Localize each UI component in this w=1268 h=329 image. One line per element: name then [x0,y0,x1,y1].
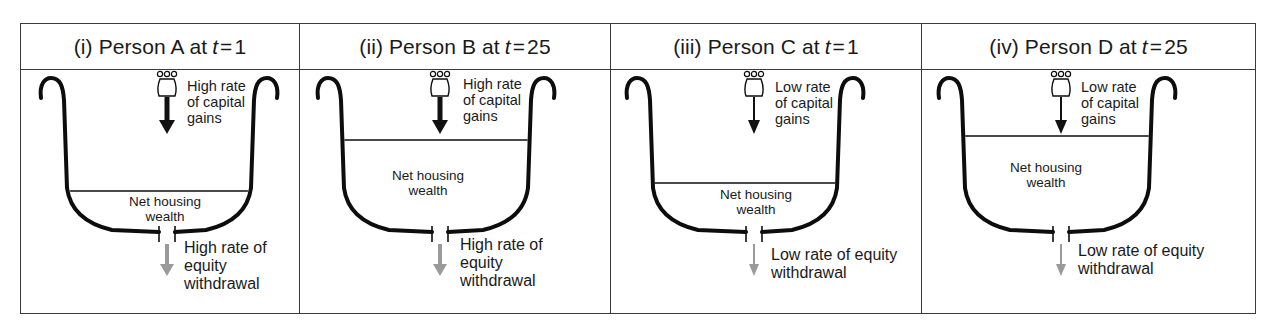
net-housing-wealth-label: Net housing wealth [1010,160,1082,190]
tap-handle-knob [157,71,162,76]
tap-body [745,79,763,96]
panel-title: (iii) Person C att=1 [611,24,921,70]
label-line: Low rate [1081,79,1139,95]
label-line: withdrawal [771,264,897,282]
label-line: Low rate of equity [1078,242,1204,260]
label-line: of capital [463,92,522,108]
panel-body: High rate of capital gains Net housing w… [300,70,610,313]
net-housing-wealth-label: Net housing wealth [720,187,792,217]
label-line: Net housing [720,187,792,202]
equity-withdrawal-arrow-head [1056,264,1066,276]
tap-handle-knob [444,71,449,76]
time-variable: t [505,35,511,59]
capital-gains-arrow-head [748,120,760,134]
label-line: wealth [720,202,792,217]
figure-frame: (i) Person A att=1 High rate of capital … [20,23,1256,314]
tap-handle-knob [758,71,763,76]
label-line: Net housing [392,168,464,183]
panel-body: Low rate of capital gains Net housing we… [611,70,921,313]
equity-withdrawal-label: Low rate of equity withdrawal [1078,242,1204,278]
net-housing-wealth-label: Net housing wealth [129,194,201,224]
equity-withdrawal-label: High rate of equity withdrawal [460,236,543,290]
time-value: 25 [1164,35,1188,59]
tap-body [1052,79,1070,96]
label-line: High rate [463,76,522,92]
label-line: High rate of [184,239,267,257]
tap-handle-knob [164,71,169,76]
panel-title: (i) Person A att=1 [21,24,299,70]
tap-icon [1051,71,1070,96]
equity-withdrawal-label: Low rate of equity withdrawal [771,246,897,282]
equity-withdrawal-label: High rate of equity withdrawal [184,239,267,293]
capital-gains-label: High rate of capital gains [187,78,246,127]
capital-gains-label: Low rate of capital gains [775,79,833,128]
panel-body: Low rate of capital gains Net housing we… [922,70,1255,313]
tap-handle-knob [430,71,435,76]
equity-withdrawal-arrow-head [433,264,447,276]
equity-withdrawal-arrow-head [749,264,759,276]
bucket-left-wall [939,78,1053,232]
time-variable: t [212,35,218,59]
label-line: of capital [187,94,246,110]
equals-sign: = [1150,35,1162,59]
bucket-left-wall [318,78,432,232]
label-line: gains [1081,111,1139,127]
label-line: equity [184,257,267,275]
capital-gains-arrow-head [1055,120,1067,134]
label-line: equity [460,254,543,272]
panel-person-b: (ii) Person B att=25 High rate of capita… [299,24,610,313]
panel-person: Person B at [389,35,500,59]
label-line: of capital [1081,95,1139,111]
panel-person: Person A at [99,35,208,59]
capital-gains-label: High rate of capital gains [463,76,522,125]
tap-icon [744,71,763,96]
equals-sign: = [833,35,845,59]
panel-numeral: (iv) [989,35,1019,59]
tap-icon [430,71,449,96]
label-line: wealth [392,183,464,198]
tap-handle-knob [1058,71,1063,76]
label-line: Low rate of equity [771,246,897,264]
panel-title: (ii) Person B att=25 [300,24,610,70]
panel-numeral: (i) [74,35,93,59]
panel-person-a: (i) Person A att=1 High rate of capital … [21,24,299,313]
time-value: 25 [527,35,551,59]
label-line: gains [187,110,246,126]
panel-body: High rate of capital gains Net housing w… [21,70,299,313]
label-line: withdrawal [460,272,543,290]
tap-handle-knob [744,71,749,76]
label-line: withdrawal [1078,260,1204,278]
time-variable: t [825,35,831,59]
panel-title: (iv) Person D att=25 [922,24,1255,70]
label-line: of capital [775,95,833,111]
label-line: Net housing [1010,160,1082,175]
label-line: High rate of [460,236,543,254]
capital-gains-arrow-head [159,120,175,134]
panel-person: Person C at [708,35,820,59]
tap-icon [157,71,176,96]
label-line: Net housing [129,194,201,209]
capital-gains-arrow-head [432,120,448,134]
panel-numeral: (ii) [359,35,383,59]
capital-gains-label: Low rate of capital gains [1081,79,1139,128]
time-value: 1 [847,35,859,59]
time-variable: t [1142,35,1148,59]
tap-handle-knob [751,71,756,76]
label-line: High rate [187,78,246,94]
label-line: wealth [1010,175,1082,190]
time-value: 1 [234,35,246,59]
label-line: gains [463,108,522,124]
tap-handle-knob [437,71,442,76]
tap-body [431,79,449,96]
equals-sign: = [513,35,525,59]
equals-sign: = [220,35,232,59]
tap-body [158,79,176,96]
label-line: withdrawal [184,275,267,293]
tap-handle-knob [1065,71,1070,76]
label-line: Low rate [775,79,833,95]
label-line: gains [775,111,833,127]
panel-person-d: (iv) Person D att=25 Low rate of capital… [921,24,1255,313]
panel-numeral: (iii) [673,35,701,59]
panel-person: Person D at [1025,35,1137,59]
panel-person-c: (iii) Person C att=1 Low rate of capital… [610,24,921,313]
